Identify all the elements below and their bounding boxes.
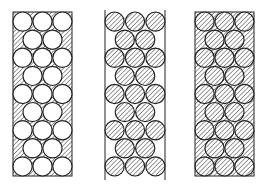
sphere	[115, 103, 134, 122]
sphere	[195, 12, 214, 31]
sphere	[53, 12, 72, 31]
sphere	[33, 157, 52, 176]
sphere	[115, 30, 134, 49]
sphere	[136, 66, 155, 85]
sphere	[115, 139, 134, 158]
sphere	[33, 48, 52, 67]
sphere	[23, 103, 42, 122]
sphere	[23, 139, 42, 158]
sphere	[146, 121, 165, 140]
sphere	[105, 157, 124, 176]
sphere	[235, 84, 254, 103]
sphere	[125, 48, 144, 67]
packed-bed-diagram	[0, 0, 262, 186]
sphere	[205, 30, 224, 49]
sphere	[215, 12, 234, 31]
sphere	[13, 12, 32, 31]
sphere	[105, 48, 124, 67]
panel-3	[195, 12, 254, 176]
sphere	[125, 12, 144, 31]
sphere	[105, 12, 124, 31]
sphere	[53, 84, 72, 103]
sphere	[115, 66, 134, 85]
sphere	[205, 103, 224, 122]
sphere	[146, 48, 165, 67]
sphere	[136, 103, 155, 122]
sphere	[125, 84, 144, 103]
sphere	[43, 103, 62, 122]
sphere	[53, 121, 72, 140]
sphere	[13, 84, 32, 103]
sphere	[136, 139, 155, 158]
sphere	[215, 121, 234, 140]
sphere	[53, 48, 72, 67]
sphere	[235, 48, 254, 67]
sphere	[136, 30, 155, 49]
sphere	[125, 157, 144, 176]
sphere	[43, 30, 62, 49]
sphere	[125, 121, 144, 140]
sphere	[146, 12, 165, 31]
sphere	[146, 157, 165, 176]
sphere	[205, 66, 224, 85]
sphere	[13, 157, 32, 176]
sphere	[235, 121, 254, 140]
sphere	[105, 84, 124, 103]
sphere	[215, 157, 234, 176]
sphere	[225, 66, 244, 85]
sphere	[195, 157, 214, 176]
panel-2	[105, 10, 165, 180]
sphere	[215, 84, 234, 103]
sphere	[215, 48, 234, 67]
sphere	[235, 157, 254, 176]
sphere	[33, 121, 52, 140]
sphere	[195, 48, 214, 67]
sphere	[225, 139, 244, 158]
sphere	[105, 121, 124, 140]
sphere	[23, 66, 42, 85]
sphere	[146, 84, 165, 103]
sphere	[23, 30, 42, 49]
sphere	[13, 48, 32, 67]
sphere	[43, 139, 62, 158]
sphere	[225, 30, 244, 49]
sphere	[205, 139, 224, 158]
sphere	[195, 84, 214, 103]
sphere	[33, 84, 52, 103]
sphere	[13, 121, 32, 140]
panel-1	[13, 12, 72, 176]
sphere	[225, 103, 244, 122]
sphere	[33, 12, 52, 31]
sphere	[195, 121, 214, 140]
sphere	[43, 66, 62, 85]
sphere	[235, 12, 254, 31]
sphere	[53, 157, 72, 176]
